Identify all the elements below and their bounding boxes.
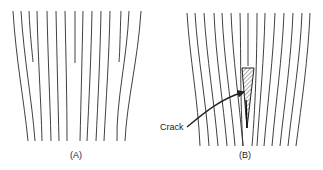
crack-label: Crack (160, 122, 184, 132)
crack-wedge (242, 68, 254, 128)
panel-a-label: (A) (70, 150, 82, 160)
panel-a-lines (13, 11, 141, 141)
grain-lines-diagram (0, 0, 323, 170)
panel-b-label: (B) (239, 150, 251, 160)
